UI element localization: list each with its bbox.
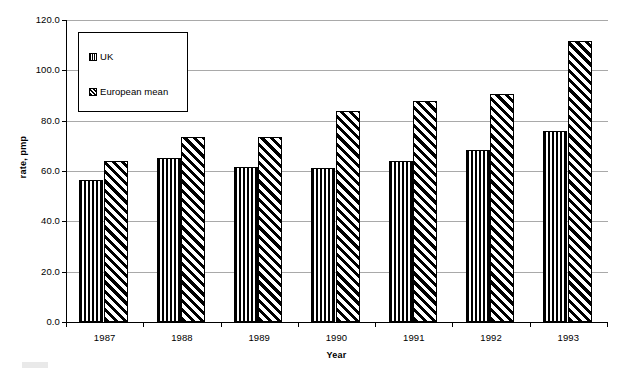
x-axis-tick-mark [66,322,67,327]
y-axis-tick-label: 80.0 [8,116,60,126]
bar-uk-1993 [543,131,567,322]
chart-legend: UK European mean [78,32,188,112]
bar-uk-1987 [79,180,103,322]
bar-uk-1990 [311,168,335,322]
legend-item-uk: UK [89,51,113,62]
x-axis-tick-label-1991: 1991 [379,332,449,343]
bar-uk-1989 [234,167,258,322]
bar-uk-1992 [466,150,490,322]
y-axis-tick-label: 60.0 [8,166,60,176]
bar-uk-1988 [157,158,181,322]
x-axis-title: Year [66,350,607,360]
x-axis-tick-label-1993: 1993 [533,332,603,343]
y-axis-tick-label: 40.0 [8,216,60,226]
x-axis-tick-label-1990: 1990 [302,332,372,343]
bar-european-mean-1991 [413,101,437,322]
bar-european-mean-1989 [258,137,282,322]
x-axis-tick-label-1992: 1992 [456,332,526,343]
legend-label-european-mean: European mean [100,86,168,97]
bar-european-mean-1988 [181,137,205,322]
y-axis-tick-label: 20.0 [8,267,60,277]
scan-artifact [22,362,48,368]
x-axis-tick-label-1988: 1988 [147,332,217,343]
x-axis-tick-mark [143,322,144,327]
x-axis-tick-mark [452,322,453,327]
x-axis-tick-mark [607,322,608,327]
y-axis-tick-label: 0.0 [8,317,60,327]
x-axis-tick-label-1989: 1989 [224,332,294,343]
bar-european-mean-1992 [490,94,514,322]
x-axis-tick-mark [221,322,222,327]
legend-label-uk: UK [100,51,113,62]
x-axis-tick-mark [298,322,299,327]
bar-european-mean-1993 [568,41,592,322]
x-axis-tick-mark [375,322,376,327]
x-axis-line [66,322,608,323]
y-axis-tick-label: 100.0 [8,65,60,75]
x-axis-tick-mark [530,322,531,327]
legend-swatch-uk-icon [89,53,97,61]
legend-item-european-mean: European mean [89,86,168,97]
legend-swatch-european-mean-icon [89,88,97,96]
bar-european-mean-1990 [336,111,360,322]
y-axis-tick-labels: 120.0100.080.060.040.020.00.0 [8,0,60,373]
bar-chart: rate, pmp 120.0100.080.060.040.020.00.0 … [0,0,633,373]
bar-uk-1991 [389,161,413,322]
y-axis-tick-label: 120.0 [8,15,60,25]
bar-european-mean-1987 [104,161,128,322]
x-axis-tick-label-1987: 1987 [70,332,140,343]
